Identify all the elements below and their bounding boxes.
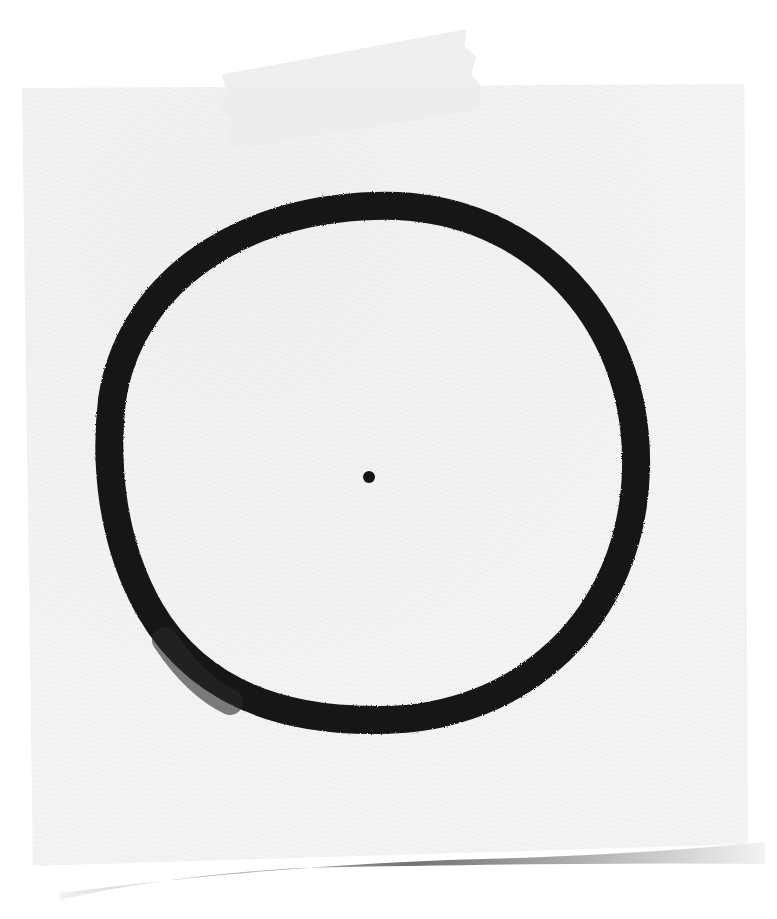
scene: [0, 0, 777, 919]
ink-circle: [109, 206, 636, 720]
center-dot: [363, 471, 375, 483]
ink-drawing: [0, 0, 777, 919]
